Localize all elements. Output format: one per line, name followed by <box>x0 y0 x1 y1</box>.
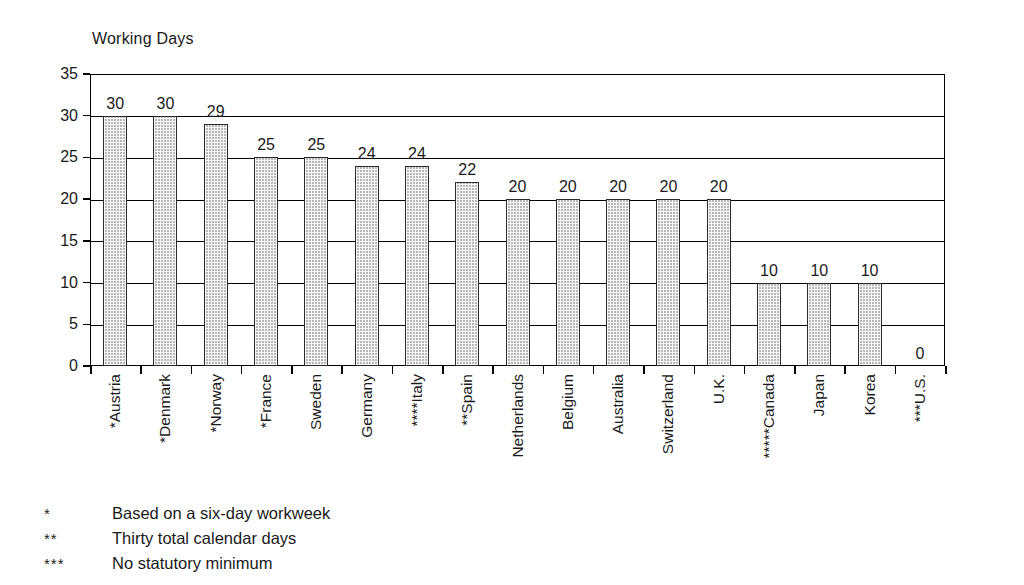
bar-slot: 10 <box>844 74 894 366</box>
y-tick-mark <box>83 73 90 75</box>
x-axis-category-label: *Norway <box>208 374 224 433</box>
bar-value-label: 25 <box>257 137 275 153</box>
bar-slot: 20 <box>543 74 593 366</box>
bar-slot: 24 <box>341 74 391 366</box>
y-tick-mark <box>83 157 90 159</box>
footnote-text: Based on a six-day workweek <box>112 505 330 522</box>
x-axis-category-label: Korea <box>862 374 878 415</box>
bar-value-label: 10 <box>810 263 828 279</box>
bar[interactable] <box>204 124 228 366</box>
bar-value-label: 22 <box>458 162 476 178</box>
bar[interactable] <box>455 182 479 366</box>
bar[interactable] <box>506 199 530 366</box>
x-label-slot: ***U.S. <box>895 374 945 492</box>
bar[interactable] <box>556 199 580 366</box>
x-label-slot: Australia <box>593 374 643 492</box>
bar-slot: 20 <box>492 74 542 366</box>
bar-slot: 22 <box>442 74 492 366</box>
footnote-text: No statutory minimum <box>112 555 272 572</box>
y-tick-mark <box>83 115 90 117</box>
footnote-marker: ** <box>44 531 112 546</box>
x-axis-category-label: Australia <box>610 374 626 434</box>
y-tick-label: 15 <box>44 233 78 249</box>
x-label-slot: Switzerland <box>643 374 693 492</box>
bar-slot: 20 <box>593 74 643 366</box>
bar[interactable] <box>757 283 781 366</box>
x-label-slot: Belgium <box>543 374 593 492</box>
bar-value-label: 0 <box>915 346 924 362</box>
y-tick-mark <box>83 240 90 242</box>
bar[interactable] <box>254 157 278 366</box>
x-label-slot: *France <box>241 374 291 492</box>
bar[interactable] <box>103 116 127 366</box>
bar-value-label: 20 <box>559 179 577 195</box>
footnote-row: ***No statutory minimum <box>44 555 644 580</box>
x-axis-category-label: Sweden <box>309 374 325 430</box>
x-label-slot: *Austria <box>90 374 140 492</box>
x-axis-category-label: *France <box>258 374 274 428</box>
x-tick-mark <box>643 366 645 374</box>
bar[interactable] <box>656 199 680 366</box>
bar-slot: 30 <box>140 74 190 366</box>
x-axis-category-label: ****Italy <box>409 374 425 427</box>
bar[interactable] <box>807 283 831 366</box>
x-tick-mark <box>341 366 343 374</box>
x-tick-mark <box>90 366 92 374</box>
y-axis-title: Working Days <box>92 30 194 48</box>
x-label-slot: Sweden <box>291 374 341 492</box>
bar-slot: 10 <box>794 74 844 366</box>
footnote-text: Thirty total calendar days <box>112 530 296 547</box>
bar[interactable] <box>153 116 177 366</box>
x-tick-mark <box>844 366 846 374</box>
bar-value-label: 30 <box>157 96 175 112</box>
x-label-slot: *Denmark <box>140 374 190 492</box>
x-tick-mark <box>794 366 796 374</box>
bar-slot: 0 <box>895 74 945 366</box>
bar[interactable] <box>606 199 630 366</box>
bar[interactable] <box>355 166 379 366</box>
y-tick-mark <box>83 324 90 326</box>
chart-page: Working Days 35302520151050 303029252524… <box>0 0 1024 585</box>
x-label-slot: Japan <box>794 374 844 492</box>
x-label-slot: ****Italy <box>392 374 442 492</box>
bar[interactable] <box>304 157 328 366</box>
x-axis-category-label: Belgium <box>560 374 576 430</box>
y-tick-mark <box>83 365 90 367</box>
y-tick-label: 10 <box>44 275 78 291</box>
x-tick-mark <box>895 366 897 374</box>
bar-slot: 30 <box>90 74 140 366</box>
x-axis-category-label: U.K. <box>711 374 727 404</box>
bar[interactable] <box>405 166 429 366</box>
x-label-slot: Germany <box>341 374 391 492</box>
x-label-slot: U.K. <box>694 374 744 492</box>
y-tick-label: 5 <box>44 316 78 332</box>
y-tick-label: 25 <box>44 149 78 165</box>
bars-container: 303029252524242220202020201010100 <box>90 74 945 366</box>
x-tick-mark <box>744 366 746 374</box>
x-label-slot: **Spain <box>442 374 492 492</box>
bar[interactable] <box>858 283 882 366</box>
x-axis-category-label: Switzerland <box>661 374 677 454</box>
bar-value-label: 24 <box>358 146 376 162</box>
x-axis-category-label: *Austria <box>107 374 123 428</box>
x-tick-mark <box>392 366 394 374</box>
bar-value-label: 10 <box>861 263 879 279</box>
x-tick-mark <box>191 366 193 374</box>
bar[interactable] <box>707 199 731 366</box>
x-label-slot: *****Canada <box>744 374 794 492</box>
bar-slot: 25 <box>291 74 341 366</box>
x-tick-mark <box>543 366 545 374</box>
x-tick-mark <box>291 366 293 374</box>
bar-value-label: 20 <box>710 179 728 195</box>
y-tick-label: 0 <box>44 358 78 374</box>
x-tick-mark <box>593 366 595 374</box>
footnotes: *Based on a six-day workweek**Thirty tot… <box>44 505 644 580</box>
x-tick-mark <box>945 366 947 374</box>
x-tick-mark <box>492 366 494 374</box>
footnote-row: **Thirty total calendar days <box>44 530 644 555</box>
x-tick-mark <box>694 366 696 374</box>
x-tick-mark <box>241 366 243 374</box>
bar-value-label: 29 <box>207 104 225 120</box>
x-axis-category-label: *Denmark <box>158 374 174 443</box>
bar-value-label: 20 <box>609 179 627 195</box>
